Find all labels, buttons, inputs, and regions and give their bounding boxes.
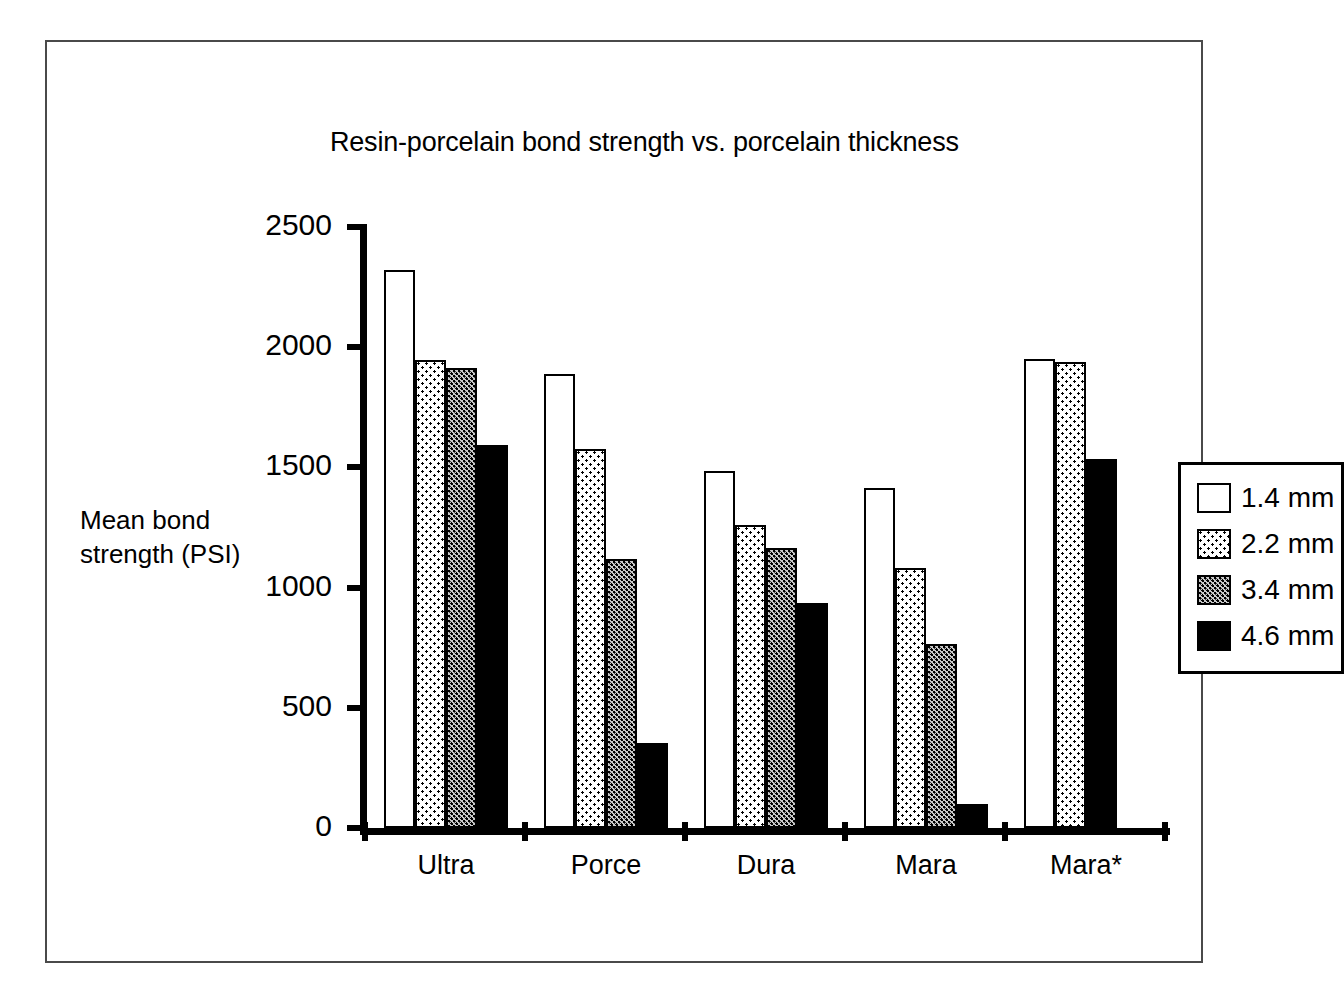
legend-swatch-open-icon — [1197, 483, 1231, 513]
bar-mara-star-46mm — [1086, 459, 1117, 828]
y-tick-label-1000: 1000 — [212, 571, 332, 601]
bar-ultra-34mm — [446, 368, 477, 828]
bar-mara-star-14mm — [1024, 359, 1055, 828]
bar-dura-46mm — [797, 603, 828, 828]
legend-item-14mm: 1.4 mm — [1197, 479, 1334, 517]
bar-ultra-14mm — [384, 270, 415, 828]
legend-label: 2.2 mm — [1241, 530, 1334, 558]
y-tick-label-500: 500 — [212, 691, 332, 721]
y-axis-label: Mean bond strength (PSI) — [80, 503, 300, 571]
legend-swatch-dense-dot-icon — [1197, 575, 1231, 605]
legend-label: 1.4 mm — [1241, 484, 1334, 512]
legend-swatch-solid-icon — [1197, 621, 1231, 651]
x-category-label-dura: Dura — [686, 850, 846, 881]
y-axis-label-line-2: strength (PSI) — [80, 537, 300, 571]
legend-item-22mm: 2.2 mm — [1197, 525, 1334, 563]
chart-legend: 1.4 mm2.2 mm3.4 mm4.6 mm — [1178, 462, 1344, 674]
chart-title: Resin-porcelain bond strength vs. porcel… — [330, 127, 1130, 158]
legend-label: 3.4 mm — [1241, 576, 1334, 604]
bar-porce-46mm — [637, 743, 668, 828]
bar-mara-14mm — [864, 488, 895, 828]
bar-mara-22mm — [895, 568, 926, 828]
bar-ultra-22mm — [415, 360, 446, 828]
bar-porce-22mm — [575, 449, 606, 828]
bar-mara-star-22mm — [1055, 362, 1086, 828]
bar-ultra-46mm — [477, 445, 508, 828]
x-category-label-mara: Mara — [846, 850, 1006, 881]
x-category-label-porce: Porce — [526, 850, 686, 881]
legend-item-34mm: 3.4 mm — [1197, 571, 1334, 609]
y-axis-label-line-1: Mean bond — [80, 503, 300, 537]
bar-mara-34mm — [926, 644, 957, 828]
legend-item-46mm: 4.6 mm — [1197, 617, 1334, 655]
x-category-label-ultra: Ultra — [366, 850, 526, 881]
bar-mara-46mm — [957, 804, 988, 828]
x-axis-spine — [360, 828, 1170, 835]
bars-layer — [360, 210, 1180, 828]
bar-porce-34mm — [606, 559, 637, 828]
bar-dura-34mm — [766, 548, 797, 828]
bar-dura-22mm — [735, 525, 766, 828]
bar-porce-14mm — [544, 374, 575, 828]
legend-swatch-light-dot-icon — [1197, 529, 1231, 559]
x-category-label-mara-star: Mara* — [1006, 850, 1166, 881]
bar-dura-14mm — [704, 471, 735, 828]
plot-area: 05001000150020002500 UltraPorceDuraMaraM… — [360, 210, 1180, 850]
y-tick-label-2000: 2000 — [212, 330, 332, 360]
y-tick-label-0: 0 — [212, 811, 332, 841]
y-tick-label-1500: 1500 — [212, 450, 332, 480]
y-tick-label-2500: 2500 — [212, 210, 332, 240]
legend-label: 4.6 mm — [1241, 622, 1334, 650]
